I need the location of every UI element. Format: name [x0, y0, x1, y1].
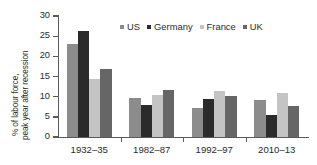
- legend-swatch-icon: [120, 25, 124, 29]
- bar-france-1992–97: [214, 91, 225, 137]
- bar-uk-2010–13: [288, 106, 299, 137]
- bar-germany-2010–13: [266, 115, 277, 137]
- y-axis-title: % of labour force, peak year after reces…: [0, 0, 30, 140]
- bar-france-1982–87: [152, 95, 163, 137]
- legend-item-germany[interactable]: Germany: [147, 22, 193, 32]
- y-tick-label: 15: [30, 72, 50, 81]
- legend-swatch-icon: [200, 25, 204, 29]
- bar-france-2010–13: [277, 93, 288, 137]
- legend-swatch-icon: [243, 25, 247, 29]
- bar-germany-1992–97: [203, 99, 214, 137]
- legend-label: France: [207, 22, 236, 32]
- legend-item-uk[interactable]: UK: [243, 22, 263, 32]
- y-tick-label: 0: [30, 132, 50, 141]
- legend-label: US: [127, 22, 140, 32]
- legend-item-us[interactable]: US: [120, 22, 140, 32]
- bar-france-1932–35: [89, 79, 100, 137]
- y-tick-label: 10: [30, 92, 50, 101]
- x-group-label-2010–13: 2010–13: [249, 144, 305, 155]
- bar-uk-1982–87: [163, 90, 174, 137]
- legend-item-france[interactable]: France: [200, 22, 236, 32]
- bar-germany-1932–35: [78, 31, 89, 137]
- chart-legend: USGermanyFranceUK: [120, 22, 263, 32]
- bar-us-1982–87: [129, 98, 140, 137]
- y-tick-label: 30: [30, 11, 50, 20]
- bar-us-1932–35: [67, 44, 78, 137]
- bar-uk-1992–97: [225, 96, 236, 137]
- y-tick-label: 25: [30, 31, 50, 40]
- x-group-label-1982–87: 1982–87: [124, 144, 180, 155]
- x-tick-mark: [246, 138, 247, 142]
- bar-chart: % of labour force, peak year after reces…: [0, 0, 317, 165]
- y-tick-label: 20: [30, 51, 50, 60]
- legend-label: UK: [250, 22, 263, 32]
- legend-swatch-icon: [147, 25, 151, 29]
- bar-us-2010–13: [254, 100, 265, 137]
- plot-area: [58, 16, 308, 137]
- x-group-label-1992–97: 1992–97: [186, 144, 242, 155]
- x-group-label-1932–35: 1932–35: [61, 144, 117, 155]
- y-axis-title-line1: % of labour force,: [11, 74, 21, 136]
- bar-uk-1932–35: [100, 69, 111, 137]
- bar-germany-1982–87: [141, 105, 152, 137]
- y-tick-label: 5: [30, 112, 50, 121]
- x-tick-mark: [183, 138, 184, 142]
- x-tick-mark: [121, 138, 122, 142]
- bar-us-1992–97: [192, 108, 203, 137]
- legend-label: Germany: [154, 22, 193, 32]
